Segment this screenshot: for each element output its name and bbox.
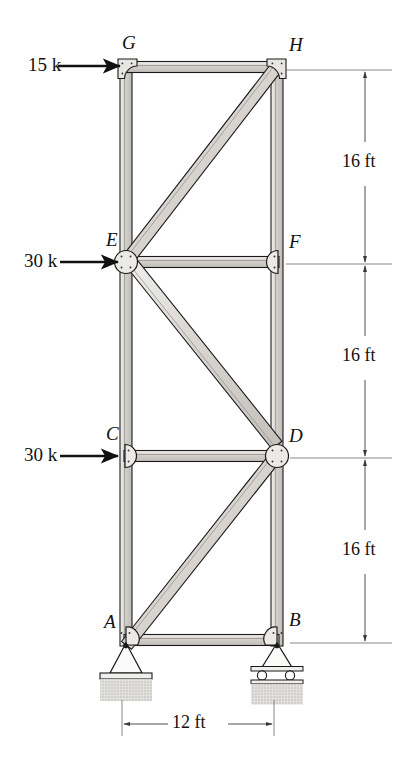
member-E-D-diagonal: [122, 253, 283, 449]
joint-label-H: H: [289, 35, 303, 54]
joint-label-B: B: [289, 610, 301, 629]
roller-support: [251, 643, 303, 705]
joint-F-gusset: [267, 251, 279, 274]
dim-label-12ft-span: 12 ft: [172, 713, 206, 731]
dim-label-16ft-bottom: 16 ft: [342, 540, 376, 558]
member-C-D: [124, 451, 279, 462]
joint-C-gusset: [125, 445, 137, 468]
member-E-H-diagonal: [122, 63, 283, 266]
joint-label-G: G: [122, 33, 136, 52]
member-E-F: [124, 257, 279, 268]
member-B-H-right-chord: [271, 62, 283, 646]
dim-label-16ft-top: 16 ft: [342, 152, 376, 170]
members-group: [120, 62, 283, 650]
member-A-D-diagonal: [122, 451, 283, 649]
load-label-G: 15 k: [28, 55, 61, 74]
pin-support: [100, 643, 152, 701]
load-label-C: 30 k: [24, 445, 57, 464]
member-A-B: [124, 635, 279, 646]
joint-label-E: E: [106, 230, 118, 249]
member-G-H: [124, 62, 279, 73]
joint-D-gusset: [266, 445, 289, 468]
dim-label-16ft-middle: 16 ft: [342, 346, 376, 364]
joint-label-D: D: [289, 426, 303, 445]
joint-label-F: F: [289, 232, 301, 251]
truss-drawing-canvas: [0, 0, 406, 772]
supports-group: [100, 643, 303, 705]
joint-label-A: A: [104, 612, 116, 631]
joint-label-C: C: [106, 424, 119, 443]
member-A-G-left-chord: [120, 62, 132, 646]
truss-figure: A B C D E F G H 15 k 30 k 30 k 16 ft 16 …: [0, 0, 406, 772]
load-arrows-group: [58, 66, 120, 456]
load-label-E: 30 k: [24, 251, 57, 270]
